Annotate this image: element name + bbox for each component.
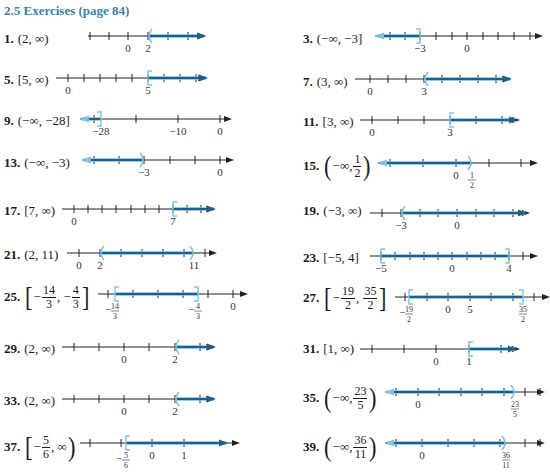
number-line: 03611 — [0, 0, 550, 475]
svg-text:36: 36 — [502, 451, 510, 460]
svg-text:11: 11 — [502, 461, 510, 470]
svg-text:0: 0 — [419, 449, 425, 461]
